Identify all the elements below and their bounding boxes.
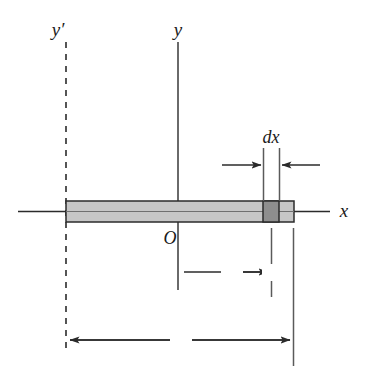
L-label-gap-mask	[170, 332, 192, 349]
dx-label: dx	[263, 127, 280, 147]
x-axis-label: x	[339, 200, 349, 221]
x-label-gap-mask-2	[221, 264, 243, 281]
y-axis-label: y	[172, 19, 183, 40]
diagram-canvas: y′ y x O dx x L	[0, 0, 365, 378]
differential-element-dx	[263, 201, 279, 222]
y-prime-axis-label: y′	[50, 19, 65, 40]
rod-diagram-figure: y′ y x O dx x L	[0, 0, 365, 378]
x-label-gap-mask	[262, 264, 282, 281]
origin-label: O	[164, 228, 177, 248]
